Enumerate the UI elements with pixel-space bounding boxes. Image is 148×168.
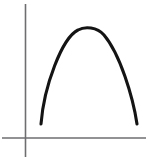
figure-container: Downward-opening parabola on coordinate …	[0, 0, 148, 168]
figure-background	[0, 0, 148, 168]
parabola-figure-svg	[0, 0, 148, 168]
